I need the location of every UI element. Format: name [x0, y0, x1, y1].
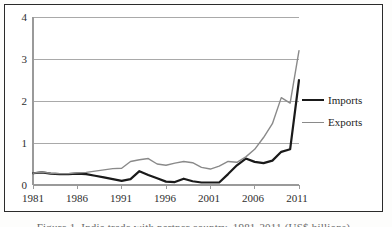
legend-label-imports: Imports [328, 95, 362, 106]
x-tick-label-2011: 2011 [277, 192, 317, 204]
y-tick-label-4: 4 [11, 11, 27, 23]
y-tick-label-2: 2 [11, 95, 27, 107]
legend-item-exports: Exports [302, 111, 376, 133]
legend-item-imports: Imports [302, 89, 376, 111]
y-tick-label-1: 1 [11, 137, 27, 149]
x-tick-marks-group [33, 185, 299, 189]
x-tick-label-2001: 2001 [189, 192, 229, 204]
series-lines-group [33, 51, 299, 183]
chart-legend: Imports Exports [302, 89, 376, 133]
gridlines-group [33, 17, 299, 185]
x-tick-label-2006: 2006 [233, 192, 273, 204]
series-line-exports [33, 51, 299, 174]
figure-frame: 0 1 2 3 4 1981 1986 1991 1996 2001 2006 … [4, 4, 383, 212]
x-tick-label-1981: 1981 [13, 192, 53, 204]
y-tick-label-0: 0 [11, 179, 27, 191]
x-tick-label-1986: 1986 [57, 192, 97, 204]
figure-caption-text: Figure 1. India trade with partner count… [4, 221, 383, 227]
figure-caption: Figure 1. India trade with partner count… [4, 214, 383, 227]
legend-swatch-exports-icon [302, 122, 324, 123]
chart-area: 0 1 2 3 4 1981 1986 1991 1996 2001 2006 … [5, 5, 382, 211]
y-tick-label-3: 3 [11, 53, 27, 65]
legend-swatch-imports-icon [302, 99, 324, 101]
figure-page: 0 1 2 3 4 1981 1986 1991 1996 2001 2006 … [0, 0, 392, 227]
x-tick-label-1991: 1991 [101, 192, 141, 204]
x-tick-label-1996: 1996 [145, 192, 185, 204]
legend-label-exports: Exports [328, 117, 362, 128]
series-line-imports [33, 80, 299, 182]
